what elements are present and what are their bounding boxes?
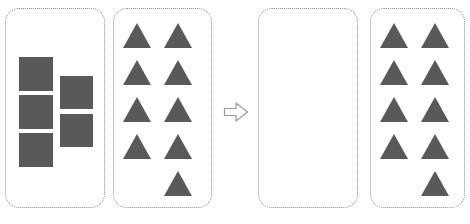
- triangle-token[interactable]: [421, 134, 449, 159]
- panel-triangles-right[interactable]: [370, 8, 465, 208]
- panel-empty-result[interactable]: [258, 8, 358, 208]
- triangle-token[interactable]: [421, 23, 449, 48]
- right-arrow-icon: [223, 101, 249, 123]
- triangle-token[interactable]: [380, 23, 408, 48]
- triangle-token[interactable]: [380, 97, 408, 122]
- triangle-token[interactable]: [421, 171, 449, 196]
- triangle-token[interactable]: [164, 134, 192, 159]
- triangle-token[interactable]: [421, 60, 449, 85]
- triangle-token[interactable]: [164, 97, 192, 122]
- square-token[interactable]: [60, 76, 93, 109]
- panel-squares-left[interactable]: [5, 8, 105, 208]
- triangle-token[interactable]: [164, 171, 192, 196]
- square-token[interactable]: [19, 133, 53, 167]
- triangle-token[interactable]: [380, 60, 408, 85]
- triangle-token[interactable]: [123, 23, 151, 48]
- triangle-token[interactable]: [123, 134, 151, 159]
- triangle-token[interactable]: [421, 97, 449, 122]
- triangle-token[interactable]: [164, 60, 192, 85]
- square-token[interactable]: [19, 95, 53, 129]
- triangle-token[interactable]: [380, 134, 408, 159]
- triangle-token[interactable]: [123, 60, 151, 85]
- triangle-token[interactable]: [123, 97, 151, 122]
- triangle-token[interactable]: [164, 23, 192, 48]
- panel-triangles-left[interactable]: [113, 8, 212, 208]
- diagram-canvas: [0, 0, 470, 224]
- square-token[interactable]: [60, 114, 93, 147]
- square-token[interactable]: [19, 57, 53, 91]
